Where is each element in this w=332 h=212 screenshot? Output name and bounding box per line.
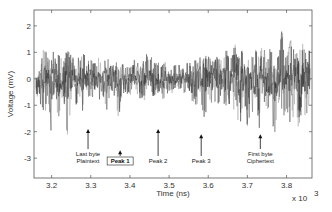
x-tick-label: 3.3 bbox=[85, 181, 97, 190]
svg-text:Ciphertext: Ciphertext bbox=[247, 158, 275, 164]
y-tick-label: -2 bbox=[24, 128, 32, 137]
annotation: Peak 3 bbox=[192, 134, 211, 164]
svg-text:Peak 1: Peak 1 bbox=[111, 158, 131, 164]
annotation: Peak 1 bbox=[107, 150, 133, 165]
x-tick-label: 3.2 bbox=[46, 181, 58, 190]
x-tick-label: 3.7 bbox=[242, 181, 254, 190]
x-tick-label: 3.6 bbox=[203, 181, 215, 190]
signal-trace bbox=[36, 32, 310, 135]
svg-text:Peak 3: Peak 3 bbox=[192, 158, 211, 164]
y-tick-label: -3 bbox=[24, 154, 32, 163]
x-multiplier-exponent: 3 bbox=[314, 189, 319, 198]
svg-text:Plaintext: Plaintext bbox=[77, 158, 100, 164]
voltage-time-chart: 210-1-2-3 3.23.33.43.53.63.73.8 Last byt… bbox=[0, 0, 332, 212]
y-tick-label: 1 bbox=[27, 48, 32, 57]
annotation: Peak 2 bbox=[149, 129, 168, 164]
y-axis-label: Voltage (mV) bbox=[6, 71, 15, 118]
x-axis-label: Time (ns) bbox=[156, 189, 190, 198]
svg-text:First byte: First byte bbox=[248, 151, 273, 157]
annotation: Last bytePlaintext bbox=[76, 129, 101, 164]
svg-text:Peak 2: Peak 2 bbox=[149, 158, 168, 164]
annotation: First byteCiphertext bbox=[247, 134, 275, 164]
x-tick-label: 3.4 bbox=[124, 181, 136, 190]
y-tick-label: 2 bbox=[27, 22, 32, 31]
svg-text:Last byte: Last byte bbox=[76, 151, 101, 157]
y-tick-label: -1 bbox=[24, 101, 32, 110]
y-tick-label: 0 bbox=[27, 75, 32, 84]
x-multiplier: x 10 bbox=[292, 194, 308, 203]
annotations: Last bytePlaintextPeak 1Peak 2Peak 3Firs… bbox=[76, 129, 274, 165]
x-tick-label: 3.8 bbox=[281, 181, 293, 190]
